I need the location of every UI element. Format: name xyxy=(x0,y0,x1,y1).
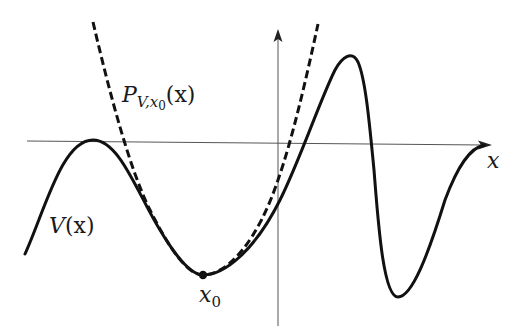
potential-curve xyxy=(25,56,484,297)
potential-label-main: V xyxy=(49,213,65,238)
approximation-label-sub: V,x xyxy=(137,93,158,111)
approximation-curve xyxy=(93,22,318,275)
min-point-label: x0 xyxy=(199,284,221,310)
potential-diagram xyxy=(0,0,518,331)
x-axis-label-text: x xyxy=(487,148,499,173)
x-axis-label: x xyxy=(487,150,499,172)
approximation-label: PV,x0(x) xyxy=(122,84,195,113)
min-point-label-sub: 0 xyxy=(211,293,221,311)
potential-label-arg: (x) xyxy=(65,213,95,238)
approximation-label-arg: (x) xyxy=(166,82,196,107)
approximation-label-subsub: 0 xyxy=(158,99,166,113)
min-point-marker xyxy=(199,271,207,279)
potential-label: V(x) xyxy=(49,215,94,237)
approximation-label-main: P xyxy=(122,82,137,107)
min-point-label-main: x xyxy=(199,282,211,307)
